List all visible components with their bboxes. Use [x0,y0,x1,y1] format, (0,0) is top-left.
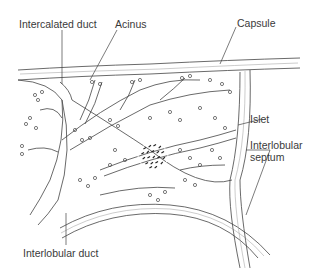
islet [138,143,168,169]
label-acinus: Acinus [115,18,147,30]
label-interlobular-septum-line1: Interlobular [250,139,303,151]
leader-capsule [220,27,236,64]
left-septum [18,80,63,215]
label-interlobular-septum-line2: septum [250,151,284,163]
label-interlobular-duct: Interlobular duct [23,247,98,259]
label-intercalated-duct: Intercalated duct [19,18,97,30]
capsule-upper-edge [18,58,300,70]
acini [20,74,231,201]
label-capsule: Capsule [237,17,276,29]
label-islet: Islet [250,113,269,125]
capsule-lower-edge [18,68,300,80]
leader-acinus [90,30,117,80]
diagram-drawing [0,0,314,268]
right-septum-right [240,70,250,268]
pancreas-lobule-diagram: Intercalated duct Acinus Capsule Islet I… [0,0,314,268]
